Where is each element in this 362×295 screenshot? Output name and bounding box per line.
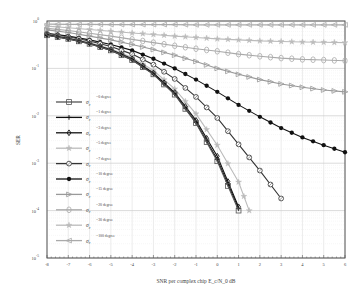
y-tick-label: 10-2 [32,112,40,119]
x-axis-label: SNR per complex chip E_c/N_0 dB [157,278,236,284]
x-tick-label: 3 [280,262,283,267]
x-tick-label: 6 [344,262,347,267]
svg-text:σe: σe [86,161,91,169]
legend-item: σe=5 degree [56,141,111,153]
svg-text:=100 degree: =100 degree [96,234,115,238]
y-axis-ticks: 10010-110-210-310-410-5 [32,17,40,261]
y-tick-label: 10-4 [32,207,40,214]
y-tick-label: 10-1 [32,64,40,71]
svg-text:σe: σe [86,238,91,246]
svg-text:σe: σe [86,222,91,230]
y-tick-label: 100 [33,17,40,24]
legend-item: σe=7 degree [56,157,111,169]
x-tick-label: -4 [130,262,134,267]
svg-text:σe: σe [86,99,91,107]
svg-text:=0 degree: =0 degree [96,95,111,99]
x-tick-label: -3 [152,262,156,267]
svg-text:=15 degree: =15 degree [96,187,113,191]
svg-text:σe: σe [86,145,91,153]
x-tick-label: 5 [323,262,326,267]
ser-vs-snr-chart: -8-7-6-5-4-3-2-10123456 10010-110-210-31… [0,0,362,295]
x-tick-label: 2 [259,262,261,267]
y-tick-label: 10-5 [32,254,40,261]
svg-text:=1 degree: =1 degree [96,110,111,114]
x-tick-label: 4 [301,262,304,267]
svg-text:=30 degree: =30 degree [96,218,113,222]
legend-item: σe=30 degree [56,218,113,230]
svg-text:σe: σe [86,130,91,138]
y-tick-label: 10-3 [32,159,40,166]
svg-text:=10 degree: =10 degree [96,172,113,176]
svg-text:=3 degree: =3 degree [96,126,111,130]
legend-item: σe=0 degree [56,95,111,107]
svg-text:σe: σe [86,176,91,184]
y-axis-label: SER [15,135,21,145]
x-tick-label: -7 [66,262,70,267]
x-axis-ticks: -8-7-6-5-4-3-2-10123456 [45,255,347,267]
svg-text:=7 degree: =7 degree [96,157,111,161]
svg-text:σe: σe [86,207,91,215]
svg-text:=5 degree: =5 degree [96,141,111,145]
x-tick-label: -6 [88,262,92,267]
legend-item: σe=10 degree [56,172,113,184]
svg-text:=20 degree: =20 degree [96,203,113,207]
legend-item: σe=20 degree [56,203,113,215]
x-tick-label: -8 [45,262,49,267]
legend-item: σe=15 degree [56,187,113,199]
x-tick-label: 1 [237,262,239,267]
x-tick-label: -5 [109,262,113,267]
legend: σe=0 degreeσe=1 degreeσe=3 degreeσe=5 de… [56,95,115,245]
svg-text:σe: σe [86,191,91,199]
grid [47,21,345,258]
legend-item: σe=3 degree [56,126,111,138]
x-tick-label: -1 [194,262,198,267]
x-tick-label: 0 [216,262,219,267]
x-tick-label: -2 [173,262,177,267]
